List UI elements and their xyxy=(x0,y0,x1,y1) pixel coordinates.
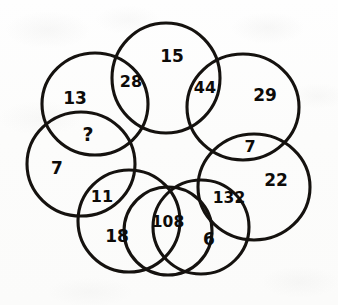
value-overlap-unknown: ? xyxy=(82,123,93,145)
value-overlap-lowerleft-left: 11 xyxy=(91,187,113,206)
overlap-values-group: 28 44 7 132 108 11 ? xyxy=(82,72,255,232)
circle-upper-right xyxy=(187,54,299,160)
circle-upper-left xyxy=(42,53,148,155)
value-right: 22 xyxy=(264,170,288,190)
value-lower-left: 18 xyxy=(105,226,129,246)
value-overlap-upperright-right: 7 xyxy=(244,137,255,156)
value-overlap-lowerright-center: 108 xyxy=(152,213,184,231)
circle-ring-svg: 15 29 22 6 18 7 13 28 44 7 132 108 11 ? xyxy=(0,0,338,305)
value-overlap-top-upperright: 44 xyxy=(194,78,216,97)
puzzle-diagram: 15 29 22 6 18 7 13 28 44 7 132 108 11 ? xyxy=(0,0,338,305)
value-lower-right: 6 xyxy=(203,229,215,249)
value-overlap-top-upperleft: 28 xyxy=(120,72,142,91)
value-upper-right: 29 xyxy=(253,85,277,105)
value-top: 15 xyxy=(160,46,184,66)
value-left: 7 xyxy=(51,158,63,178)
value-overlap-right-lowerright: 132 xyxy=(213,189,245,207)
value-upper-left: 13 xyxy=(63,88,87,108)
